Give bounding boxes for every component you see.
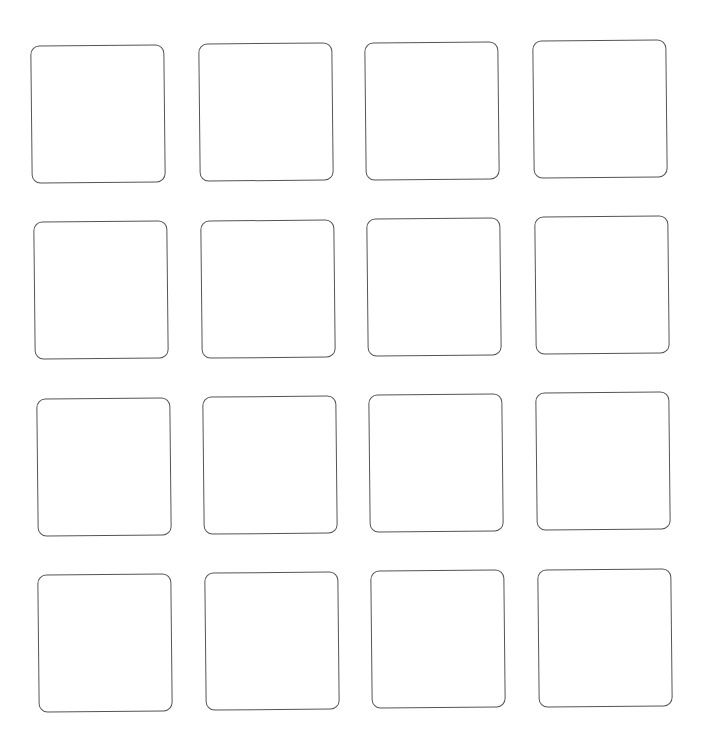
tile-r3-c4[interactable] (535, 391, 670, 530)
tile-r3-c1[interactable] (36, 397, 171, 536)
tile-r2-c3[interactable] (366, 217, 501, 356)
tile-r2-c4[interactable] (534, 215, 669, 354)
tile-r2-c2[interactable] (200, 219, 335, 358)
tile-r4-c2[interactable] (204, 571, 339, 710)
tile-r1-c3[interactable] (364, 41, 499, 180)
tile-r2-c1[interactable] (33, 220, 168, 359)
tile-r1-c2[interactable] (198, 42, 333, 181)
tile-grid (0, 0, 706, 736)
tile-r3-c2[interactable] (202, 395, 337, 534)
tile-r4-c1[interactable] (37, 573, 172, 712)
tile-r4-c4[interactable] (537, 568, 672, 707)
tile-r3-c3[interactable] (368, 393, 503, 532)
tile-r1-c4[interactable] (532, 39, 667, 178)
tile-r4-c3[interactable] (370, 569, 505, 708)
tile-r1-c1[interactable] (30, 44, 165, 183)
